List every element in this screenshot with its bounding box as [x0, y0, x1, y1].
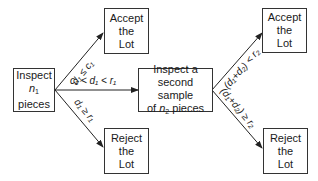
- reject-first-line2: the: [119, 145, 134, 158]
- reject-first-line3: Lot: [119, 158, 134, 171]
- inspect-second-line1: Inspect a: [153, 63, 198, 76]
- reject-lot-first-box: Reject the Lot: [104, 128, 149, 174]
- reject-second-line3: Lot: [278, 158, 293, 171]
- accept-lot-second-box: Accept the Lot: [262, 8, 307, 53]
- inspect-first-line2: n1: [29, 82, 39, 98]
- inspect-second-line2: second sample: [139, 76, 212, 102]
- reject-second-line1: Reject: [270, 132, 301, 145]
- accept-first-line1: Accept: [110, 12, 144, 25]
- inspect-second-sample-box: Inspect a second sample of n2 pieces: [138, 68, 213, 112]
- accept-second-line3: Lot: [277, 37, 292, 50]
- reject-lot-second-box: Reject the Lot: [263, 128, 308, 174]
- inspect-second-line3: of n2 pieces: [147, 102, 204, 118]
- edge-label-continue: c₁ < d₁ < r₁: [70, 76, 116, 86]
- accept-first-line3: Lot: [119, 38, 134, 51]
- accept-second-line1: Accept: [268, 11, 302, 24]
- accept-lot-first-box: Accept the Lot: [104, 8, 149, 54]
- reject-first-line1: Reject: [111, 132, 142, 145]
- accept-first-line2: the: [119, 25, 134, 38]
- inspect-first-sample-box: Inspect n1 pieces: [13, 68, 55, 112]
- inspect-first-line1: Inspect: [16, 69, 51, 82]
- reject-second-line2: the: [278, 145, 293, 158]
- inspect-first-line3: pieces: [18, 98, 50, 111]
- accept-second-line2: the: [277, 24, 292, 37]
